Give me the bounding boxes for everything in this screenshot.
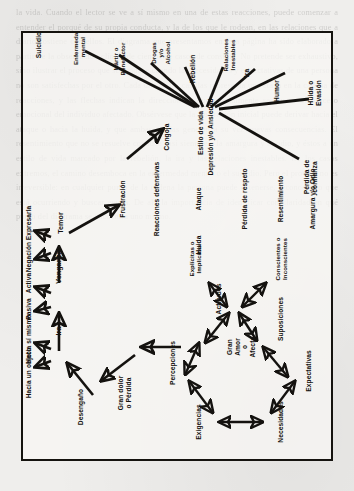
node-desengano: Desengaño xyxy=(77,389,85,425)
node-ataque: Ataque xyxy=(195,188,203,211)
node-expresarla: Expresarla xyxy=(25,206,33,241)
node-gran-dolor: Gran dolor o Pérdida xyxy=(117,376,132,411)
node-percepciones: Percepciones xyxy=(169,341,177,385)
node-activa: Activa xyxy=(25,273,33,293)
node-perdida-de-confianza: Pérdida de confianza xyxy=(303,160,318,195)
node-huida-o-evasion: Huida o Evasión xyxy=(307,80,322,106)
node-huida: Huida xyxy=(195,236,203,255)
node-resentimiento: Resentimiento xyxy=(277,176,285,223)
rotated-diagram-stage: Necesidades Expectativas Exigencias Supo… xyxy=(23,33,331,459)
figure-frame: Necesidades Expectativas Exigencias Supo… xyxy=(21,31,333,461)
node-enfermedad-mental: Enfermedad mental xyxy=(72,31,86,65)
node-negacion: Negación xyxy=(25,242,33,272)
node-frustracion: Frustración xyxy=(119,180,127,217)
node-drogas-alcohol: Drogas y/o Alcohol xyxy=(150,41,171,64)
node-necesidades: Necesidades xyxy=(277,401,285,442)
node-humor: Humor xyxy=(273,80,281,102)
node-expectativas: Expectativas xyxy=(305,350,313,392)
node-ira: Ira xyxy=(55,327,63,336)
node-actitudes: Actitudes xyxy=(215,284,223,315)
node-congoja: Congoja xyxy=(163,123,171,150)
node-reacciones-defensivas: Reacciones defensivas xyxy=(153,162,161,237)
node-pasiva: Pasiva xyxy=(25,298,33,320)
node-perdida-de-respeto: Pérdida de respeto xyxy=(241,168,249,229)
node-hacia-si-mismo: Hacia sí mismo xyxy=(25,314,33,363)
node-exigencias: Exigencias xyxy=(195,404,203,439)
node-rebelion: Rebelión xyxy=(189,55,197,84)
node-martir-o-benefactor: Mártir o Benefactor xyxy=(112,43,126,76)
node-relaciones-inestables: Relaciones Inestables xyxy=(222,38,236,71)
node-gran-amor: Gran Amor o Afecto xyxy=(226,336,256,357)
node-estilo-de-vida: Estilo de vida xyxy=(197,111,205,155)
node-ira-2: Ira xyxy=(243,69,251,77)
node-suicidio: Suicidio xyxy=(35,32,43,58)
node-temor: Temor xyxy=(57,212,65,234)
node-depresion-ansiedad: Depresión y/o Ansiedad xyxy=(207,98,215,175)
node-venganza: Venganza xyxy=(55,250,63,284)
node-suposiciones: Suposiciones xyxy=(277,297,285,341)
node-conscientes: Conscientes o Inconscientes xyxy=(274,238,288,281)
